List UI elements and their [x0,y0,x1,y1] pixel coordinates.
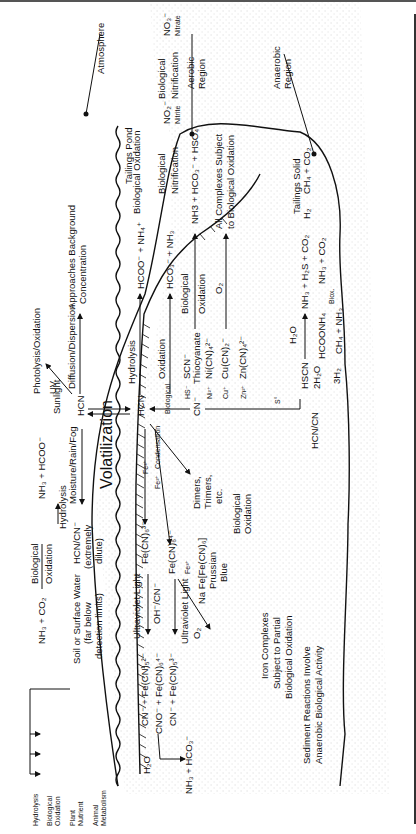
pond-scn-bio-1: Biological [179,273,190,314]
fate-animal-2: Metabolism [100,790,107,826]
pond-hcn: HCN [135,395,146,416]
pond-fe-cn6-3: Fe(CN)₆³⁻ [139,521,150,564]
soil-far-2: detection limits) [93,593,104,659]
pond-prussian-3: Blue [218,563,229,582]
pond-dimers-1: Dimers, [191,476,202,509]
pond-oh-cn: OH⁻/CN⁻ [151,583,162,624]
sed-hcn-cn: HCN/CN [309,412,320,449]
sed-s0: S° [274,396,281,404]
pond-hco3-nh3: HCO₃⁻ + NH₃ [164,230,175,289]
sed-h2: H₂ [301,208,312,219]
sed-hcoonh4: HCOONH₄ [316,313,327,359]
pond-nitr-bio-1: Biological [156,153,167,194]
atm-moisture: Moisture/Rain/Fog [67,426,78,504]
pond-cn-fecn5-b: CN⁻ + Fe(CN)₅³⁻ [167,653,178,726]
soil-bio-1: Biological [29,543,40,584]
pond-nitrate: Nitrate [174,15,181,36]
pond-nh3-hco3: NH₃ + HCO₃⁻ [183,736,194,794]
soil-hcn-cn: HCN/CN⁻ [71,522,82,564]
pond-uv-light-1: Ultraviolet Light [131,573,142,639]
pond-bio-oxidation: Biological Oxidation [131,131,142,214]
cyanide-fate-diagram: Atmosphere Aerobic Region Anaerobic Regi… [0,0,416,834]
pond-scn-bio-2: Oxidation [196,274,207,314]
fate-bio-2: Oxidation [54,796,61,826]
sed-biox: Biox. [328,288,335,304]
pond-zn: Zn²⁺ [240,385,247,400]
pond-no2: NO₂⁻ [161,101,172,124]
sed-nh3-h2s-co2: NH₃ + H₂S + CO₂ [299,235,310,309]
pond-o2-b: O₂ [191,628,202,639]
soil-nh3-co2: NH₃ + CO₂ [36,597,47,644]
label-anaerobic-1: Anaerobic [271,46,282,89]
pond-no3: NO₃⁻ [161,13,172,36]
top-border [0,0,416,2]
pond-all-complexes-1: All Complexes Subject [213,134,224,229]
pond-fe3-b: Fe³⁺ [184,560,191,575]
pond-dimers-bio-2: Oxidation [242,494,253,534]
atm-photolysis: Photolysis/Oxidation [31,308,42,394]
pond-iron-1: Iron Complexes [259,612,270,679]
fate-bio-1: Biological [46,796,54,826]
diagram-frame: Atmosphere Aerobic Region Anaerobic Regi… [0,0,416,834]
pond-fe-cn6-4: Fe(CN)₆⁴⁻ [166,530,177,574]
sed-reactions-1: Sediment Reactions Involve [301,646,312,764]
pond-cu-cn: Cu(CN)₂⁻ [219,338,230,379]
atm-uv: UV [47,380,58,394]
pond-cu: Cu⁺ [222,386,229,399]
atm-hcn: HCN [75,395,86,416]
pond-iron-2: Subject to Partial [271,617,282,689]
pond-ni: Ni²⁺ [206,386,213,399]
pond-cno-fecn6: CNO⁻ + Fe(CN)₆⁴⁻ [153,653,164,734]
pond-hcoo-nh4: HCOO⁻ + NH₄⁺ [135,222,146,289]
sed-ch4-nh3: CH₄ + NH₃ [333,308,344,354]
sed-h2o: H₂O [287,326,298,344]
pond-o2: O₂ [213,283,224,294]
label-aerobic-1: Aerobic [185,57,196,89]
sed-2h2o: 2H₂O [311,366,322,389]
fate-plant-2: Nutrient [77,801,84,826]
label-aerobic-2: Region [196,59,207,89]
pond-nitrite: Nitrite [174,106,181,124]
soil-extremely-2: dilute) [93,538,104,564]
label-anaerobic-2: Region [282,59,293,89]
pond-cn: CN⁻ [191,397,202,416]
soil-bio-2: Oxidation [43,544,54,584]
atm-diffusion: Diffusion/Dispersion [66,305,77,389]
soil-extremely-1: (extremely [82,524,93,569]
pond-hs: HS⁻ [184,385,191,399]
pond-dimers-3: etc. [213,489,224,504]
sed-3h2: 3H₂ [331,368,342,384]
soil-hydrolysis: Hydrolysis [57,485,68,529]
soil-far-1: (far below [82,602,93,644]
pond-nitrification-2: Nitrification [169,52,180,99]
pond-hydrolysis: Hydrolysis [126,340,137,384]
soil-nh3-hcoo: NH₃ + HCOO⁻ [36,437,47,499]
fate-plant-1: Plant [69,810,76,826]
sed-nh3-co2: NH₃ + CO₂ [316,237,327,284]
pond-all-complexes-2: to Biological Oxidation [225,135,236,229]
sed-hscn: HSCN [299,362,310,389]
pond-prussian-1: Na Fe[Fe(CN)₆] [196,538,207,604]
volatilization-label: Volatilization [98,400,115,489]
pond-iron-3: Biological Oxidation [283,616,294,699]
sed-reactions-2: Anaerobic Biological Activity [313,645,324,764]
pond-nitrification-1: Nitrification [169,147,180,194]
pond-ni-cn: Ni(CN)₄²⁻ [203,338,214,379]
pond-dimers-bio-1: Biological [231,493,242,534]
soil-water: Soil or Surface Water [71,574,82,664]
atm-approaches-1: Approaches Background [66,205,77,309]
pond-nitr-bio-2: Biological [156,58,167,99]
pond-thiocyanate: Thiocyanate [191,332,202,384]
fate-hydrolysis: Hydrolysis [32,793,40,826]
sed-ch4-co2: CH₄ + CO₂ [301,147,312,194]
atm-approaches-2: Concentration [77,245,88,304]
pond-fe2: Fe²⁺ [154,475,161,490]
pond-cn-fecn5-a: CN⁻ + Fe(CN)₅²⁻ [139,653,150,726]
pond-zn-cn: Zn(CN)₄²⁻ [237,336,248,379]
pond-scn-products: NH3 + HCO₃⁻ + HSO₄ [189,129,200,224]
label-atmosphere: Atmosphere [95,23,106,74]
pond-prussian-2: Prussian [207,552,218,589]
fate-animal-1: Animal [92,804,99,826]
pond-oxidation: Oxidation [156,339,167,379]
pond-uv-light-2: Ultraviolet Light [179,578,190,644]
